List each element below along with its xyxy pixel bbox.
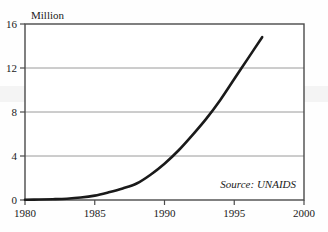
x-tick-label-2000: 2000 bbox=[293, 207, 316, 219]
y-tick-label-12: 12 bbox=[6, 62, 17, 74]
x-axis-ticks bbox=[25, 200, 304, 205]
x-tick-label-1985: 1985 bbox=[84, 207, 107, 219]
y-axis-title: Million bbox=[31, 9, 65, 21]
y-axis-ticks bbox=[20, 24, 25, 200]
y-tick-label-0: 0 bbox=[12, 194, 18, 206]
y-tick-label-8: 8 bbox=[12, 106, 18, 118]
y-tick-label-16: 16 bbox=[6, 18, 18, 30]
x-tick-label-1995: 1995 bbox=[223, 207, 246, 219]
x-tick-label-1990: 1990 bbox=[154, 207, 177, 219]
source-annotation: Source: UNAIDS bbox=[220, 178, 296, 190]
x-tick-label-1980: 1980 bbox=[14, 207, 37, 219]
y-tick-label-4: 4 bbox=[12, 150, 18, 162]
line-chart-figure: Million 0 4 8 12 16 1980 1985 1990 1995 … bbox=[0, 0, 328, 232]
chart-container: Million 0 4 8 12 16 1980 1985 1990 1995 … bbox=[0, 0, 328, 232]
